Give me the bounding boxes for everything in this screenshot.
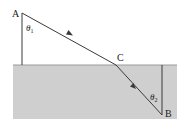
angle-theta1: θ1 — [26, 23, 33, 34]
label-a: A — [12, 8, 20, 19]
incident-ray — [22, 13, 116, 65]
arrow-icon — [66, 30, 73, 36]
label-b: B — [165, 108, 172, 119]
refraction-diagram: A C B θ1 θ2 — [0, 0, 182, 125]
label-c: C — [117, 52, 124, 63]
